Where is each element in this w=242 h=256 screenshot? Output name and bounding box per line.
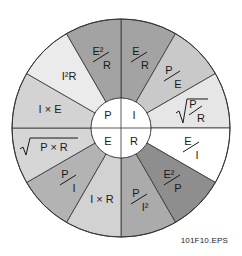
svg-text:E: E xyxy=(132,45,139,57)
svg-text:P: P xyxy=(165,64,172,76)
svg-text:R: R xyxy=(141,59,149,71)
quadrant-label-e: E xyxy=(104,135,111,147)
svg-text:P × R: P × R xyxy=(40,141,68,153)
svg-text:I × E: I × E xyxy=(39,103,62,115)
svg-text:I²: I² xyxy=(142,201,149,213)
svg-text:I: I xyxy=(72,182,75,194)
svg-text:I: I xyxy=(195,149,198,161)
svg-text:E²: E² xyxy=(163,168,174,180)
svg-text:P: P xyxy=(174,182,181,194)
svg-text:I²R: I²R xyxy=(62,70,77,82)
segment-formula: I × R xyxy=(90,193,114,205)
svg-text:E: E xyxy=(184,135,191,147)
svg-text:R: R xyxy=(197,112,205,124)
svg-text:I × R: I × R xyxy=(90,193,114,205)
ohms-law-wheel: ERPEPREIE²PPI²I × RPIP × RI × EI²RE²RPIE… xyxy=(0,0,242,256)
quadrant-label-r: R xyxy=(130,135,138,147)
svg-text:P: P xyxy=(189,98,196,110)
svg-text:E²: E² xyxy=(92,45,103,57)
svg-text:R: R xyxy=(103,59,111,71)
segment-formula: I²R xyxy=(62,70,77,82)
segment-formula: I × E xyxy=(39,103,62,115)
svg-text:E: E xyxy=(174,78,181,90)
quadrant-label-i: I xyxy=(132,109,135,121)
quadrant-label-p: P xyxy=(104,109,111,121)
svg-text:P: P xyxy=(61,168,68,180)
figure-caption: 101F10.EPS xyxy=(181,236,228,245)
svg-text:P: P xyxy=(132,187,139,199)
